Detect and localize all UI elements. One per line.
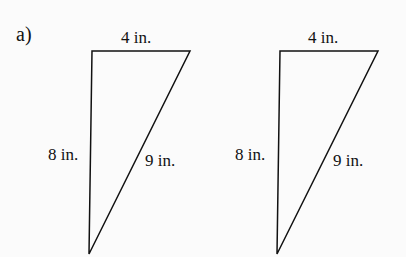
problem-label: a)	[16, 24, 32, 44]
triangle-2-top-label: 4 in.	[308, 29, 338, 46]
triangle-2-hyp-label: 9 in.	[333, 152, 363, 169]
triangles-diagram	[0, 0, 406, 257]
triangle-1-left-label: 8 in.	[48, 146, 78, 163]
triangle-1-top-label: 4 in.	[121, 29, 151, 46]
triangle-1-hyp-label: 9 in.	[145, 152, 175, 169]
triangle-2-left-label: 8 in.	[235, 146, 265, 163]
